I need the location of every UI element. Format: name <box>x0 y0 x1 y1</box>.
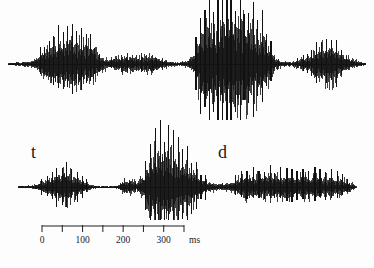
bottom-waveform-panel <box>0 120 374 220</box>
top-waveform-panel <box>0 0 374 120</box>
axis-tick-label-300: 300 <box>157 235 171 245</box>
time-axis-unit-label: ms <box>189 235 200 245</box>
top-waveform-trace <box>0 0 374 120</box>
time-axis: 0100200300 ms <box>0 220 374 268</box>
waveform-figure: t d 0100200300 ms <box>0 0 374 268</box>
bottom-waveform-trace <box>0 120 374 220</box>
phone-label-d: d <box>218 143 227 161</box>
phone-label-t: t <box>31 143 36 161</box>
time-axis-ruler <box>0 220 374 244</box>
axis-tick-label-0: 0 <box>40 235 45 245</box>
axis-tick-label-100: 100 <box>75 235 89 245</box>
axis-tick-label-200: 200 <box>116 235 130 245</box>
